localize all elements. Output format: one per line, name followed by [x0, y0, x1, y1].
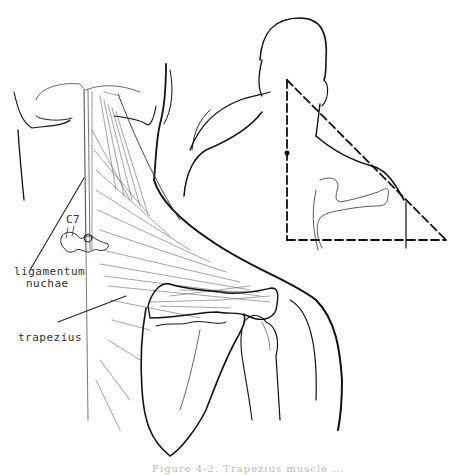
scapula — [141, 284, 278, 456]
deltoid-outline — [290, 300, 316, 400]
label-c7: C7 — [66, 214, 80, 226]
ligamentum-nuchae — [84, 90, 92, 420]
c7-vertebra — [61, 232, 109, 252]
humerus — [241, 316, 280, 420]
midpoint-dot — [285, 151, 290, 156]
label-nuchae: nuchae — [26, 278, 69, 290]
label-trapezius: trapezius — [18, 332, 82, 344]
inset-figure — [184, 18, 446, 250]
figure-caption: Figure 4-2. Trapezius muscle ... — [152, 463, 345, 474]
